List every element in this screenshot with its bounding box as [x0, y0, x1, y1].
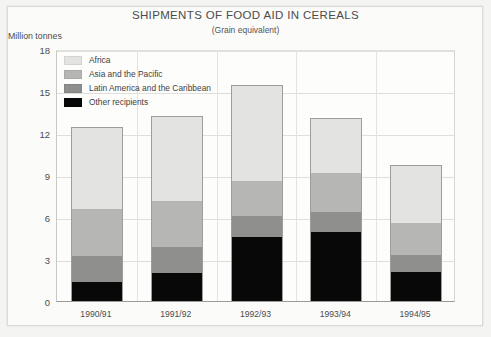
y-axis-tick-label: 9 [0, 171, 50, 182]
bar-1992-93 [231, 85, 283, 301]
bar-segment [152, 201, 202, 247]
x-axis-tick-label: 1994/95 [400, 309, 431, 319]
legend-label: Asia and the Pacific [89, 69, 163, 79]
legend-swatch-icon [64, 84, 82, 93]
y-axis-tick-label: 18 [0, 45, 50, 56]
bar-segment [311, 119, 361, 173]
bar-segment [232, 216, 282, 237]
legend-label: Latin America and the Caribbean [89, 83, 211, 93]
x-axis-tick-label: 1991/92 [160, 309, 191, 319]
bar-segment [232, 181, 282, 216]
bar-segment [391, 255, 441, 272]
y-axis-tick-label: 12 [0, 129, 50, 140]
bar-1991-92 [151, 116, 203, 301]
bar-segment [311, 232, 361, 301]
y-axis-tick-label: 6 [0, 213, 50, 224]
bar-segment [311, 173, 361, 212]
bar-1990-91 [71, 127, 123, 301]
legend-label: Africa [89, 55, 110, 65]
bar-segment [72, 128, 122, 209]
bar-segment [232, 86, 282, 181]
chart-title: SHIPMENTS OF FOOD AID IN CEREALS [0, 9, 491, 21]
bar-segment [232, 237, 282, 301]
legend-item: Other recipients [64, 95, 211, 109]
x-gridline [296, 51, 297, 301]
legend-item: Asia and the Pacific [64, 67, 211, 81]
legend-swatch-icon [64, 98, 82, 107]
bar-segment [391, 166, 441, 223]
x-gridline [217, 51, 218, 301]
legend-item: Africa [64, 53, 211, 67]
chart-subtitle: (Grain equivalent) [0, 25, 491, 35]
y-axis-tick-label: 0 [0, 297, 50, 308]
x-axis-tick-label: 1993/94 [320, 309, 351, 319]
bar-1993-94 [310, 118, 362, 301]
x-axis-tick-label: 1992/93 [240, 309, 271, 319]
bar-segment [72, 209, 122, 256]
y-axis-tick-label: 3 [0, 255, 50, 266]
chart-legend: AfricaAsia and the PacificLatin America … [64, 53, 211, 109]
y-axis-caption: Million tonnes [8, 31, 62, 41]
bar-segment [72, 256, 122, 281]
y-gridline [57, 51, 454, 52]
bar-segment [72, 282, 122, 301]
bar-segment [152, 273, 202, 301]
legend-swatch-icon [64, 56, 82, 65]
bar-segment [152, 117, 202, 201]
chart-page: SHIPMENTS OF FOOD AID IN CEREALS (Grain … [0, 0, 491, 337]
legend-label: Other recipients [89, 97, 148, 107]
bar-1994-95 [390, 165, 442, 301]
bar-segment [152, 247, 202, 273]
x-gridline [376, 51, 377, 301]
y-axis-tick-label: 15 [0, 87, 50, 98]
bar-segment [391, 272, 441, 301]
x-axis-tick-label: 1990/91 [80, 309, 111, 319]
legend-item: Latin America and the Caribbean [64, 81, 211, 95]
bar-segment [391, 223, 441, 255]
bar-segment [311, 212, 361, 232]
legend-swatch-icon [64, 70, 82, 79]
